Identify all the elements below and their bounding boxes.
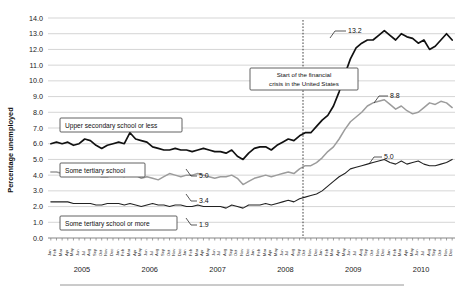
- data-label-1-9: 1.9: [186, 218, 209, 228]
- x-tick-month: Aug: [222, 248, 227, 256]
- x-tick-month: Aug: [86, 248, 91, 256]
- x-tick-month: Dec: [380, 249, 385, 256]
- callout-some-tertiary: Some tertiary school: [60, 163, 145, 177]
- x-tick-month: Jun: [279, 249, 284, 256]
- x-tick-month: Mar: [397, 248, 402, 256]
- x-tick-month: Dec: [245, 249, 250, 256]
- x-tick-month: Sep: [160, 248, 165, 256]
- x-tick-month: Oct: [166, 249, 171, 256]
- data-label-5-0-left-text: 5.0: [199, 172, 209, 179]
- x-tick-month: May: [409, 247, 414, 256]
- x-tick-month: Nov: [239, 248, 244, 256]
- y-axis-tick-labels: 0.01.02.03.04.05.06.07.08.09.010.011.012…: [29, 14, 43, 243]
- x-tick-month: Jan: [250, 249, 255, 256]
- x-tick-month: Jun: [211, 249, 216, 256]
- x-tick-month: May: [137, 247, 142, 256]
- x-tick-month: Jul: [149, 251, 154, 256]
- x-axis-year-2005: 2005: [74, 265, 90, 274]
- x-tick-month: May: [69, 247, 74, 256]
- x-tick-month: Nov: [171, 248, 176, 256]
- x-axis-month-labels: JanFebMarAprMayJunJulAugSepOctNovDecJanF…: [47, 238, 453, 256]
- x-tick-month: Aug: [358, 248, 363, 256]
- crisis-annotation: Start of the financial crisis in the Uni…: [250, 68, 358, 90]
- x-tick-month: Feb: [52, 248, 57, 256]
- x-tick-month: Sep: [92, 248, 97, 256]
- x-tick-month: Mar: [58, 248, 63, 256]
- y-tick-label: 11.0: [30, 61, 43, 70]
- y-tick-label: 10.0: [29, 76, 43, 85]
- x-tick-month: Mar: [194, 248, 199, 256]
- x-tick-month: Jan: [47, 249, 52, 256]
- x-tick-month: Mar: [329, 248, 334, 256]
- data-label-8-8-text: 8.8: [390, 92, 400, 99]
- x-tick-month: May: [341, 247, 346, 256]
- x-tick-month: Feb: [392, 248, 397, 256]
- callout-upper-secondary-label: Upper secondary school or less: [65, 122, 158, 130]
- x-tick-month: Jan: [182, 249, 187, 256]
- data-label-5-0-right-text: 5.0: [384, 153, 394, 160]
- x-tick-month: Dec: [313, 249, 318, 256]
- x-tick-month: Dec: [109, 249, 114, 256]
- x-axis-year-2009: 2009: [345, 265, 361, 274]
- x-tick-month: Sep: [431, 248, 436, 256]
- x-tick-month: May: [273, 247, 278, 256]
- y-tick-label: 3.0: [33, 186, 43, 195]
- callout-upper-secondary: Upper secondary school or less: [60, 118, 182, 132]
- x-tick-month: Mar: [126, 248, 131, 256]
- x-tick-month: Jan: [318, 249, 323, 256]
- data-label-3-4: 3.4: [186, 194, 209, 204]
- y-tick-label: 0.0: [33, 234, 43, 243]
- crisis-annotation-line1: Start of the financial: [277, 71, 332, 78]
- x-tick-month: Jun: [346, 249, 351, 256]
- x-tick-month: Jul: [216, 251, 221, 256]
- y-axis-title: Percentage unemployed: [6, 107, 15, 193]
- callout-some-tertiary-label: Some tertiary school: [65, 167, 126, 175]
- y-tick-label: 5.0: [33, 155, 43, 164]
- x-tick-month: Feb: [324, 248, 329, 256]
- x-tick-month: Nov: [375, 248, 380, 256]
- x-axis-year-2010: 2010: [413, 265, 429, 274]
- x-tick-month: Oct: [301, 249, 306, 256]
- data-label-1-9-text: 1.9: [199, 221, 209, 228]
- y-tick-label: 13.0: [29, 29, 43, 38]
- unemployment-line-chart: 0.01.02.03.04.05.06.07.08.09.010.011.012…: [0, 0, 462, 293]
- y-tick-label: 14.0: [29, 14, 43, 23]
- y-tick-label: 1.0: [33, 218, 43, 227]
- y-tick-label: 9.0: [33, 92, 43, 101]
- data-label-3-4-text: 3.4: [199, 197, 209, 204]
- x-tick-month: Aug: [426, 248, 431, 256]
- x-tick-month: Nov: [103, 248, 108, 256]
- x-tick-month: Mar: [262, 248, 267, 256]
- x-tick-month: Nov: [307, 248, 312, 256]
- y-tick-label: 6.0: [33, 139, 43, 148]
- x-tick-month: Dec: [448, 249, 453, 256]
- x-axis-year-labels: 200520062007200820092010: [74, 265, 430, 274]
- x-tick-month: Sep: [296, 248, 301, 256]
- x-tick-month: Aug: [154, 248, 159, 256]
- x-tick-month: Sep: [363, 248, 368, 256]
- x-tick-month: Apr: [403, 249, 408, 256]
- x-tick-month: Apr: [267, 249, 272, 256]
- x-tick-month: Jun: [414, 249, 419, 256]
- x-tick-month: Oct: [233, 249, 238, 256]
- x-tick-month: Jul: [284, 251, 289, 256]
- data-label-13-2-text: 13.2: [348, 27, 362, 34]
- x-axis-year-2006: 2006: [142, 265, 158, 274]
- y-tick-label: 4.0: [33, 171, 43, 180]
- x-tick-month: Nov: [443, 248, 448, 256]
- crisis-annotation-line2: crisis in the United States: [269, 80, 339, 87]
- y-tick-label: 12.0: [29, 45, 43, 54]
- y-tick-label: 8.0: [33, 108, 43, 117]
- x-tick-month: Sep: [228, 248, 233, 256]
- x-tick-month: Jun: [143, 249, 148, 256]
- x-tick-month: Apr: [132, 249, 137, 256]
- x-tick-month: Oct: [369, 249, 374, 256]
- x-tick-month: Feb: [188, 248, 193, 256]
- y-tick-label: 7.0: [33, 124, 43, 133]
- x-tick-month: Aug: [290, 248, 295, 256]
- chart-canvas: 0.01.02.03.04.05.06.07.08.09.010.011.012…: [0, 0, 462, 293]
- x-tick-month: Oct: [437, 249, 442, 256]
- x-tick-month: Dec: [177, 249, 182, 256]
- x-tick-month: Jul: [352, 251, 357, 256]
- x-axis-year-2008: 2008: [277, 265, 293, 274]
